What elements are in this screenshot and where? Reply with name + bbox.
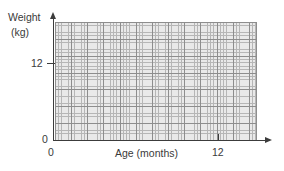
- x-axis-tick-label-0: 0: [48, 147, 54, 158]
- y-axis-tick-label-12: 12: [31, 58, 43, 69]
- y-axis-line: [53, 18, 54, 141]
- y-axis-tick-label-0: 0: [42, 134, 48, 145]
- arrow-right-icon: [265, 137, 272, 143]
- y-axis-title-line-2: (kg): [11, 27, 29, 38]
- graph-canvas: Weight (kg) 12 0 0 12 Age (months): [0, 0, 284, 171]
- y-axis-title-line-1: Weight: [8, 12, 41, 23]
- x-axis-tick-label-12: 12: [212, 147, 224, 158]
- plot-grid-area: [55, 22, 257, 140]
- y-axis-tick-12: [47, 63, 55, 64]
- x-axis-title: Age (months): [115, 148, 178, 159]
- arrow-up-icon: [50, 12, 56, 19]
- x-axis-line: [53, 140, 266, 141]
- x-axis-tick-12: [218, 134, 219, 141]
